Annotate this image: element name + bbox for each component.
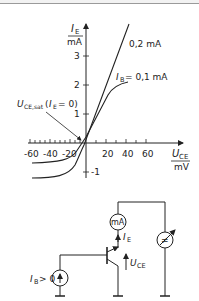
svg-text:I: I (123, 232, 126, 242)
svg-text:= 0,1 mA: = 0,1 mA (125, 72, 168, 82)
svg-text:I: I (71, 23, 74, 34)
x-axis-title: U CE mV (171, 148, 190, 172)
circuit (52, 202, 175, 296)
uce-label: U CE (130, 258, 146, 270)
wire-base (60, 255, 107, 270)
diagram-canvas: -60 -40 -20 20 40 60 3 2 1 -1 I E mA U C… (0, 0, 199, 301)
svg-text:I: I (49, 99, 52, 109)
svg-text:I: I (116, 72, 119, 82)
svg-text:U: U (130, 258, 137, 268)
transistor-collector (107, 259, 118, 266)
curve-label-0.2mA: 0,2 mA (129, 39, 162, 49)
y-axis-title: I E mA (67, 23, 83, 47)
svg-text:E: E (75, 28, 79, 36)
ib-label: I B > 0 (30, 274, 55, 286)
y-tick-label: 1 (74, 109, 80, 119)
x-axis-ticks (30, 139, 146, 143)
transistor-emitter (107, 247, 118, 252)
ie-label: I E (123, 232, 131, 244)
svg-text:mA: mA (67, 37, 83, 47)
svg-text:U: U (17, 99, 24, 109)
x-tick-label: 20 (102, 149, 114, 159)
wire-top (118, 202, 165, 232)
y-tick-label: 3 (74, 51, 80, 61)
y-tick-label: 2 (74, 80, 80, 90)
svg-text:I: I (30, 274, 33, 284)
svg-text:(: ( (45, 99, 49, 109)
chart: -60 -40 -20 20 40 60 3 2 1 -1 I E mA U C… (17, 23, 190, 178)
svg-text:CE: CE (137, 262, 146, 270)
svg-text:CE,sat: CE,sat (24, 103, 44, 110)
ammeter-label: mA (111, 218, 125, 227)
svg-text:E: E (127, 236, 131, 244)
voltmeter-symbol: ≠ (161, 235, 169, 245)
curve-label-0.1mA: I B = 0,1 mA (116, 72, 168, 84)
svg-text:> 0: > 0 (39, 274, 55, 284)
svg-text:= 0): = 0) (58, 99, 78, 109)
x-tick-label: 60 (142, 149, 154, 159)
svg-text:E: E (53, 103, 57, 110)
y-tick-label: -1 (91, 167, 100, 177)
svg-text:mV: mV (174, 162, 190, 172)
x-tick-label: 40 (122, 149, 134, 159)
svg-text:B: B (120, 76, 124, 84)
svg-text:CE: CE (179, 153, 188, 161)
svg-text:B: B (34, 278, 38, 286)
x-tick-label: -60 (24, 149, 39, 159)
x-tick-label: -40 (43, 149, 58, 159)
annotation-uce-sat: U CE,sat ( I E = 0) (17, 99, 81, 140)
